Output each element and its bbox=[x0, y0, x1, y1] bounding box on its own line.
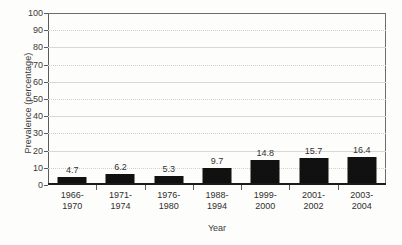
bar-slot: 5.3 bbox=[145, 13, 193, 185]
x-tick-label-line: 1974 bbox=[96, 201, 144, 212]
x-tick-label: 1971-1974 bbox=[96, 190, 144, 212]
y-tick-label: 70 bbox=[33, 60, 43, 70]
x-tick-label-line: 1966- bbox=[48, 190, 96, 201]
bar-value-label: 14.8 bbox=[257, 148, 275, 158]
x-tick-label-line: 1980 bbox=[145, 201, 193, 212]
x-tick-label-line: 1976- bbox=[145, 190, 193, 201]
bar bbox=[299, 158, 328, 185]
x-tick-label-line: 2004 bbox=[338, 201, 386, 212]
x-tick-label-line: 2001- bbox=[289, 190, 337, 201]
bars-layer: 4.76.25.39.714.815.716.4 bbox=[48, 13, 386, 185]
x-tick-label-line: 2003- bbox=[338, 190, 386, 201]
bar-slot: 4.7 bbox=[48, 13, 96, 185]
bar-value-label: 16.4 bbox=[353, 145, 371, 155]
x-axis-title: Year bbox=[48, 223, 386, 233]
bar-value-label: 9.7 bbox=[211, 156, 224, 166]
x-tick-label-line: 2000 bbox=[241, 201, 289, 212]
x-tick-label: 1966-1970 bbox=[48, 190, 96, 212]
bar-slot: 6.2 bbox=[96, 13, 144, 185]
plot-area: 1009080706050403020100 4.76.25.39.714.81… bbox=[48, 13, 386, 185]
bar bbox=[251, 160, 280, 185]
x-tick-label: 2003-2004 bbox=[338, 190, 386, 212]
x-tick-label-line: 1971- bbox=[96, 190, 144, 201]
bar-slot: 16.4 bbox=[338, 13, 386, 185]
y-tick-label: 10 bbox=[33, 163, 43, 173]
y-tick-label: 40 bbox=[33, 111, 43, 121]
bar-slot: 15.7 bbox=[289, 13, 337, 185]
y-tick-label: 30 bbox=[33, 128, 43, 138]
x-tick-label-line: 2002 bbox=[289, 201, 337, 212]
x-tick-label: 1988-1994 bbox=[193, 190, 241, 212]
x-tick-label: 1976-1980 bbox=[145, 190, 193, 212]
y-tick-label: 60 bbox=[33, 77, 43, 87]
y-tick-label: 90 bbox=[33, 25, 43, 35]
bar-slot: 14.8 bbox=[241, 13, 289, 185]
bar-value-label: 6.2 bbox=[114, 162, 127, 172]
x-tick-label: 1999-2000 bbox=[241, 190, 289, 212]
bar-value-label: 5.3 bbox=[162, 164, 175, 174]
bar-value-label: 15.7 bbox=[305, 146, 323, 156]
y-tick-label: 20 bbox=[33, 146, 43, 156]
y-axis-title: Prevalence (percentage) bbox=[23, 23, 33, 183]
x-tick-label: 2001-2002 bbox=[289, 190, 337, 212]
x-tick-label-line: 1970 bbox=[48, 201, 96, 212]
x-axis-tick-labels: 1966-19701971-19741976-19801988-19941999… bbox=[48, 190, 386, 212]
bar bbox=[347, 157, 376, 185]
bar-value-label: 4.7 bbox=[66, 165, 79, 175]
y-tick-label: 50 bbox=[33, 94, 43, 104]
x-tick-label-line: 1994 bbox=[193, 201, 241, 212]
y-tick-label: 80 bbox=[33, 42, 43, 52]
y-tick-label: 0 bbox=[38, 180, 43, 190]
x-tick-label-line: 1999- bbox=[241, 190, 289, 201]
x-tick-label-line: 1988- bbox=[193, 190, 241, 201]
y-tick-label: 100 bbox=[28, 8, 43, 18]
bar-slot: 9.7 bbox=[193, 13, 241, 185]
bar-chart: Prevalence (percentage) 1009080706050403… bbox=[0, 0, 402, 245]
